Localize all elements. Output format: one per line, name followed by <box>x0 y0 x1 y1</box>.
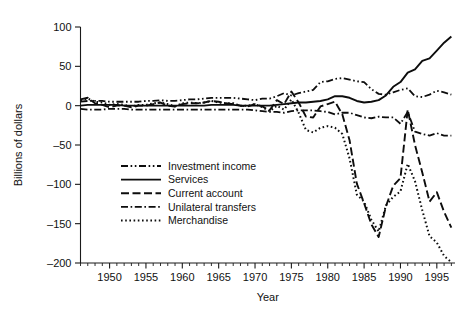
x-axis-label: Year <box>257 291 280 303</box>
x-tick-label: 1985 <box>352 271 376 283</box>
y-tick-label: 50 <box>59 60 71 72</box>
balance-of-payments-line-chart: 100500–50–100–150–200 195019551960196519… <box>0 0 476 322</box>
y-axis-ticks <box>75 27 81 263</box>
x-tick-label: 1955 <box>134 271 158 283</box>
x-tick-label: 1970 <box>243 271 267 283</box>
y-axis-label: Billions of dollars <box>12 103 24 186</box>
series-line-services <box>81 36 452 105</box>
x-tick-label: 1975 <box>279 271 303 283</box>
y-tick-label: 0 <box>65 100 71 112</box>
y-tick-label: –100 <box>47 178 71 190</box>
x-tick-label: 1980 <box>316 271 340 283</box>
x-axis: 1950195519601965197019751980198519901995 <box>81 263 456 283</box>
legend-label-services: Services <box>168 173 208 185</box>
x-axis-ticks <box>81 263 452 269</box>
chart-figure: 100500–50–100–150–200 195019551960196519… <box>0 0 476 322</box>
y-tick-label: –150 <box>47 218 71 230</box>
x-tick-label: 1950 <box>97 271 121 283</box>
legend-label-investment-income: Investment income <box>168 160 256 172</box>
series-line-investment-income <box>81 78 452 102</box>
legend-label-current-account: Current account <box>168 187 243 199</box>
legend-label-merchandise: Merchandise <box>168 214 228 226</box>
x-axis-tick-labels: 1950195519601965197019751980198519901995 <box>97 271 449 283</box>
series-line-current-account <box>81 92 452 238</box>
series-line-unilateral-transfers <box>81 109 452 136</box>
data-series-group <box>81 36 452 262</box>
y-tick-label: –200 <box>47 257 71 269</box>
y-axis-tick-labels: 100500–50–100–150–200 <box>47 21 71 269</box>
x-tick-label: 1990 <box>388 271 412 283</box>
y-tick-label: 100 <box>53 21 71 33</box>
chart-legend: Investment incomeServicesCurrent account… <box>121 160 256 226</box>
x-tick-label: 1965 <box>206 271 230 283</box>
x-tick-label: 1995 <box>425 271 449 283</box>
y-tick-label: –50 <box>53 139 71 151</box>
y-axis: 100500–50–100–150–200 <box>47 21 80 269</box>
x-tick-label: 1960 <box>170 271 194 283</box>
legend-label-unilateral-transfers: Unilateral transfers <box>168 201 256 213</box>
